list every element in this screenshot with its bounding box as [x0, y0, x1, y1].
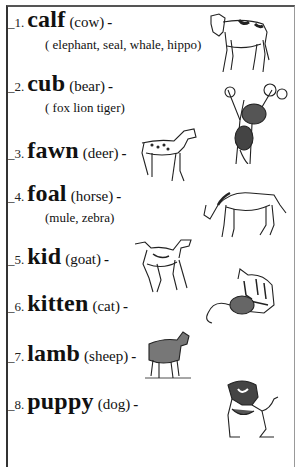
parent-animal: (bear) [69, 78, 105, 94]
calf-drawing [205, 10, 275, 75]
answer-dash: - [131, 348, 136, 364]
other-animals: ( fox lion tiger) [45, 100, 125, 116]
parent-animal: (cat) [92, 298, 119, 314]
item-calf: _1.calf(cow)- [8, 6, 112, 33]
lamb-drawing [143, 330, 193, 382]
item-kid: _5.kid(goat)- [8, 243, 109, 270]
baby-animal-word: fawn [27, 137, 78, 163]
fawn-drawing [138, 127, 200, 185]
other-animals: ( elephant, seal, whale, hippo) [45, 37, 201, 53]
item-cub: _2.cub(bear)- [8, 70, 113, 97]
item-puppy: _8.puppy(dog)- [8, 388, 138, 415]
baby-animal-word: cub [27, 70, 65, 96]
parent-animal: (dog) [98, 396, 131, 412]
item-number: _1. [8, 15, 24, 30]
item-number: _4. [8, 189, 24, 204]
baby-animal-word: puppy [27, 388, 93, 414]
answer-dash: - [123, 298, 128, 314]
item-kitten: _6.kitten(cat)- [8, 290, 128, 317]
kitten-with-yarn-drawing [200, 265, 280, 325]
item-lamb: _7.lamb(sheep)- [8, 340, 136, 367]
parent-animal: (sheep) [84, 348, 128, 364]
item-number: _5. [8, 252, 24, 267]
item-number: _6. [8, 299, 24, 314]
kid-goat-drawing [133, 234, 195, 296]
answer-dash: - [116, 188, 121, 204]
baby-animal-word: kitten [27, 290, 88, 316]
bear-cub-in-tree-drawing [210, 80, 294, 164]
item-number: _2. [8, 79, 24, 94]
answer-dash: - [107, 14, 112, 30]
answer-dash: - [108, 78, 113, 94]
answer-dash: - [122, 145, 127, 161]
foal-drawing [200, 175, 290, 245]
baby-animal-word: calf [27, 6, 65, 32]
item-fawn: _3.fawn(deer)- [8, 137, 127, 164]
other-animals: (mule, zebra) [45, 210, 114, 226]
item-number: _8. [8, 397, 24, 412]
item-foal: _4.foal(horse)- [8, 180, 121, 207]
baby-animal-word: foal [27, 180, 66, 206]
baby-animal-word: lamb [27, 340, 80, 366]
parent-animal: (cow) [69, 14, 104, 30]
parent-animal: (deer) [83, 145, 119, 161]
answer-dash: - [133, 396, 138, 412]
parent-animal: (horse) [71, 188, 113, 204]
parent-animal: (goat) [65, 251, 101, 267]
baby-animal-word: kid [27, 243, 61, 269]
item-number: _7. [8, 349, 24, 364]
answer-dash: - [104, 251, 109, 267]
item-number: _3. [8, 146, 24, 161]
puppy-drawing [222, 375, 282, 441]
